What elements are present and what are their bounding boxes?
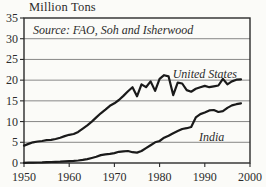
y-tick-label: 35: [6, 11, 18, 25]
fertilizer-use-chart: Million Tons 051015202530351950196019701…: [0, 0, 266, 187]
y-tick-label: 5: [12, 135, 18, 149]
series-label-india: India: [198, 130, 224, 144]
series-label-united-states: United States: [173, 67, 238, 81]
plot-area: 05101520253035195019601970198019902000So…: [0, 0, 266, 187]
y-tick-label: 10: [6, 115, 18, 129]
x-tick-label: 1960: [57, 170, 81, 184]
y-tick-label: 20: [6, 73, 18, 87]
x-tick-label: 2000: [238, 170, 262, 184]
x-tick-label: 1950: [12, 170, 36, 184]
y-tick-label: 30: [6, 32, 18, 46]
x-tick-label: 1970: [102, 170, 126, 184]
source-note: Source: FAO, Soh and Isherwood: [33, 23, 194, 37]
x-tick-label: 1980: [148, 170, 172, 184]
x-tick-label: 1990: [193, 170, 217, 184]
y-tick-label: 15: [6, 94, 18, 108]
y-tick-label: 0: [12, 156, 18, 170]
y-tick-label: 25: [6, 52, 18, 66]
